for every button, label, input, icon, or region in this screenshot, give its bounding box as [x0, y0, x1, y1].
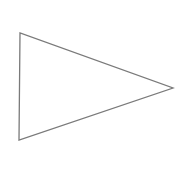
background [0, 0, 179, 180]
diagram-canvas [0, 0, 179, 180]
